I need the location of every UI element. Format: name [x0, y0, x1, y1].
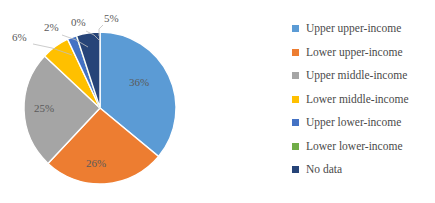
slice-data-label-outside: 6% — [12, 31, 27, 43]
legend-item-upper-middle-income[interactable]: Upper middle-income — [292, 64, 435, 88]
legend-item-label: No data — [306, 164, 342, 176]
legend-swatch-icon — [292, 119, 299, 126]
slice-data-label: 36% — [129, 76, 149, 88]
legend-swatch-icon — [292, 96, 299, 103]
legend-swatch-icon — [292, 72, 299, 79]
legend-item-label: Lower middle-income — [306, 94, 409, 106]
legend-item-lower-lower-income[interactable]: Lower lower-income — [292, 135, 435, 159]
pie-svg: 36%26%25%6%2%0%5% — [0, 0, 280, 203]
pie-chart-figure: 36%26%25%6%2%0%5% Upper upper-incomeLowe… — [0, 0, 435, 203]
slice-data-label: 25% — [34, 102, 54, 114]
legend-item-lower-upper-income[interactable]: Lower upper-income — [292, 41, 435, 65]
chart-legend: Upper upper-incomeLower upper-incomeUppe… — [292, 17, 435, 182]
legend-swatch-icon — [292, 49, 299, 56]
legend-item-upper-lower-income[interactable]: Upper lower-income — [292, 111, 435, 135]
legend-item-lower-middle-income[interactable]: Lower middle-income — [292, 88, 435, 112]
legend-swatch-icon — [292, 166, 299, 173]
legend-swatch-icon — [292, 143, 299, 150]
legend-item-label: Upper lower-income — [306, 117, 401, 129]
slice-data-label-outside: 5% — [104, 12, 119, 24]
legend-item-upper-upper-income[interactable]: Upper upper-income — [292, 17, 435, 41]
legend-item-label: Upper upper-income — [306, 23, 401, 35]
pie-plot-area: 36%26%25%6%2%0%5% — [0, 0, 280, 203]
slice-data-label-outside: 0% — [71, 16, 86, 28]
legend-item-label: Lower upper-income — [306, 47, 403, 59]
slice-data-label-outside: 2% — [44, 21, 59, 33]
legend-item-label: Lower lower-income — [306, 141, 403, 153]
legend-item-label: Upper middle-income — [306, 70, 407, 82]
legend-item-no-data[interactable]: No data — [292, 158, 435, 182]
legend-swatch-icon — [292, 25, 299, 32]
slice-data-label: 26% — [86, 157, 106, 169]
